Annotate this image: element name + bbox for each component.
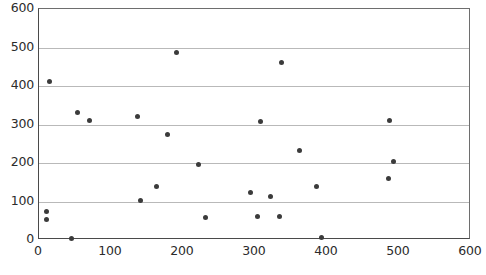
y-tick-label-200: 200 [0, 156, 34, 169]
x-tick-label-200: 200 [162, 245, 202, 258]
data-point [387, 118, 392, 123]
x-tick-label-400: 400 [306, 245, 346, 258]
gridline-y-500 [39, 48, 469, 49]
y-tick-label-400: 400 [0, 79, 34, 92]
y-tick-label-100: 100 [0, 194, 34, 207]
x-tick-label-500: 500 [378, 245, 418, 258]
gridline-y-400 [39, 86, 469, 87]
plot-area [38, 8, 470, 239]
data-point [319, 235, 324, 240]
data-point [386, 176, 391, 181]
data-point [44, 209, 49, 214]
data-point [75, 110, 80, 115]
y-tick-label-0: 0 [0, 233, 34, 246]
data-point [154, 184, 159, 189]
gridline-y-100 [39, 202, 469, 203]
data-point [248, 190, 253, 195]
data-point [314, 184, 319, 189]
y-tick-label-300: 300 [0, 117, 34, 130]
data-point [165, 132, 170, 137]
x-tick-label-0: 0 [18, 245, 58, 258]
gridline-y-200 [39, 163, 469, 164]
data-point [277, 214, 282, 219]
y-tick-label-500: 500 [0, 40, 34, 53]
data-point [268, 194, 273, 199]
data-point [255, 214, 260, 219]
data-point [258, 119, 263, 124]
x-axis-tick-labels: 0100200300400500600 [0, 245, 475, 265]
data-point [279, 60, 284, 65]
data-point [297, 148, 302, 153]
data-point [196, 162, 201, 167]
x-tick-label-600: 600 [450, 245, 486, 258]
data-point [44, 217, 49, 222]
data-point [203, 215, 208, 220]
data-point [174, 50, 179, 55]
y-tick-label-600: 600 [0, 2, 34, 15]
gridline-y-300 [39, 125, 469, 126]
data-point [135, 114, 140, 119]
data-point [87, 118, 92, 123]
data-point [69, 236, 74, 241]
x-tick-label-300: 300 [234, 245, 274, 258]
x-tick-label-100: 100 [90, 245, 130, 258]
data-point [47, 79, 52, 84]
y-axis-tick-labels: 0100200300400500600 [0, 0, 34, 275]
